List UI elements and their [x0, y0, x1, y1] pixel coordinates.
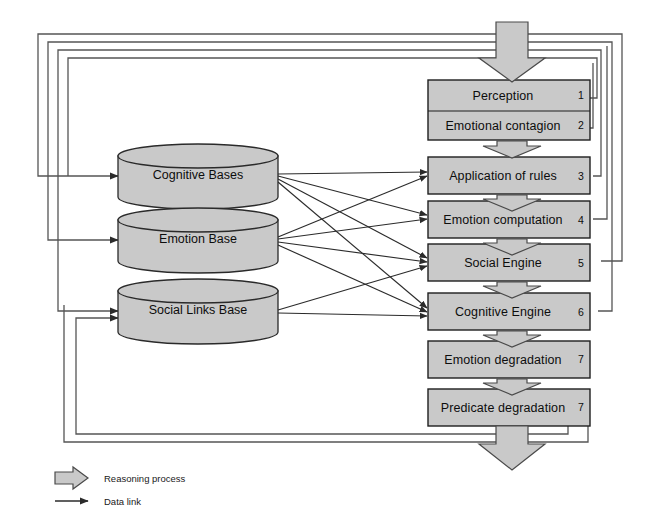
diagram-canvas: Perception 1 Emotional contagion 2 Appli…	[0, 0, 660, 517]
feedback-line-emotion-computation	[593, 46, 607, 219]
box-application-of-rules	[428, 157, 590, 194]
box-cognitive-engine	[428, 293, 590, 330]
data-link-sociallinks-to-social	[278, 266, 427, 310]
reasoning-arrow-top	[479, 22, 545, 82]
cylinder-cognitive-bases	[118, 144, 278, 209]
legend-glyphs-group	[55, 467, 88, 501]
data-links-group	[278, 172, 427, 316]
reasoning-arrow-bottom	[479, 426, 545, 470]
data-link-sociallinks-to-cognitive	[278, 313, 427, 316]
cylinder-social-links-base	[118, 279, 278, 344]
reasoning-arrow-contagion-to-rules	[483, 141, 541, 158]
box-predicate-degradation	[428, 389, 590, 426]
data-link-emobase-to-emocomp	[278, 219, 427, 239]
data-link-cogbases-to-rules	[278, 172, 427, 174]
box-perception-contagion-group	[428, 80, 590, 140]
data-stores-group	[118, 144, 278, 344]
box-emotion-degradation	[428, 341, 590, 378]
legend-block-arrow-icon	[55, 467, 88, 489]
diagram-svg	[0, 0, 660, 517]
data-link-cogbases-to-emocomp	[278, 176, 427, 215]
data-link-emobase-to-rules	[278, 176, 427, 237]
data-link-emobase-to-cognitive	[278, 245, 427, 312]
cylinder-emotion-base	[118, 208, 278, 273]
data-link-cogbases-to-social	[278, 179, 427, 258]
